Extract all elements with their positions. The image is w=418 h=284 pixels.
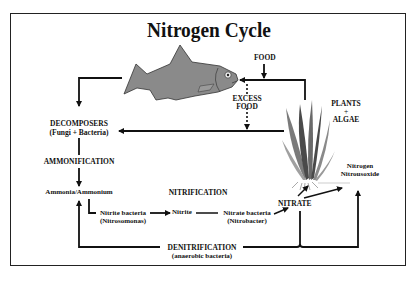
excess-food-label: EXCESS FOOD (230, 95, 264, 110)
plants-algae-label: PLANTS + ALGAE (326, 100, 366, 124)
nitrite-bacteria-line2: (Nitrosomonas) (94, 217, 152, 225)
decomposers-label: DECOMPOSERS (Fungi + Bacteria) (34, 120, 124, 137)
plants-line3: ALGAE (326, 116, 366, 124)
denitrification-line2: (anaerobic bacteria) (160, 252, 244, 261)
connector-lines (0, 0, 418, 284)
nitrification-label: NITRIFICATION (160, 189, 236, 197)
nitrite-label: Nitrite (172, 209, 192, 216)
ammonia-label: Ammonia/Ammonium (34, 189, 124, 196)
nitrate-bacteria-line2: (Nitrobacter) (218, 217, 276, 225)
nitrate-label: NITRATE (278, 200, 312, 208)
denitrification-line1: DENITRIFICATION (160, 243, 244, 252)
nitrate-bacteria-label: Nitrate bacteria (Nitrobacter) (218, 209, 276, 226)
decomposers-line2: (Fungi + Bacteria) (34, 129, 124, 138)
nitrogen-line2: Nitrousoxide (336, 170, 384, 178)
food-label: FOOD (254, 54, 276, 62)
denitrification-label: DENITRIFICATION (anaerobic bacteria) (160, 243, 244, 261)
excess-food-line2: FOOD (230, 103, 264, 111)
nitrate-bacteria-line1: Nitrate bacteria (218, 209, 276, 217)
ammonification-label: AMMONIFICATION (34, 158, 124, 166)
nitrite-bacteria-label: Nitrite bacteria (Nitrosomonas) (94, 209, 152, 226)
fish-icon (124, 45, 238, 100)
nitrite-bacteria-line1: Nitrite bacteria (94, 209, 152, 217)
nitrogen-line1: Nitrogen (336, 162, 384, 170)
nitrogen-label: Nitrogen Nitrousoxide (336, 162, 384, 179)
